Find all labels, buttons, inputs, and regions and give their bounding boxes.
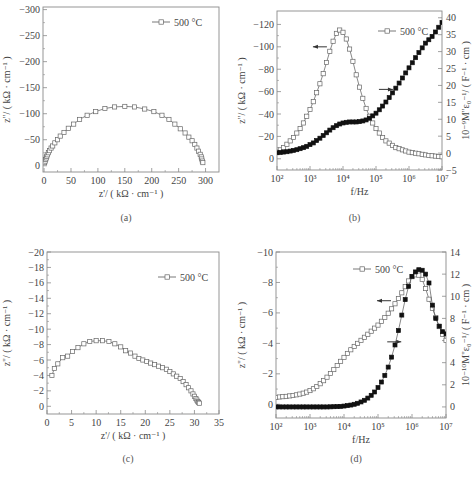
x-tick-label: 200	[144, 175, 159, 186]
marker-open-square	[386, 311, 390, 315]
y-right-tick-label: 8	[450, 313, 455, 324]
x-axis-label: f/Hz	[352, 434, 370, 445]
marker-open-square	[66, 126, 70, 130]
y-right-tick-label: 0	[446, 148, 451, 159]
legend-marker-icon	[385, 29, 389, 33]
marker-filled-square	[430, 34, 434, 38]
marker-open-square	[62, 130, 66, 134]
x-tick-label: 10⁴	[337, 421, 351, 432]
y-tick-label: −50	[24, 134, 40, 145]
y-tick-label: 0	[268, 399, 273, 410]
y-tick-label: 0	[269, 153, 274, 164]
x-tick-label: 150	[117, 175, 132, 186]
plot-area	[274, 268, 448, 409]
marker-filled-square	[414, 56, 418, 60]
marker-open-square	[137, 356, 141, 360]
marker-filled-square	[386, 365, 390, 369]
marker-open-square	[291, 135, 295, 139]
y-right-tick-label: 0	[450, 401, 455, 412]
y-tick-label: −10	[28, 324, 44, 335]
y-right-tick-label: 25	[446, 63, 456, 74]
x-tick-label: 10⁶	[405, 421, 419, 432]
marker-open-square	[124, 349, 128, 353]
y-right-tick-label: 14	[450, 247, 460, 258]
y-tick-label: −2	[262, 368, 273, 379]
marker-open-square	[128, 351, 132, 355]
marker-filled-square	[407, 66, 411, 70]
x-axis-label: z'/ ( kΩ · cm⁻¹ )	[101, 430, 165, 442]
marker-filled-square	[384, 100, 388, 104]
marker-open-square	[70, 349, 74, 353]
x-tick-label: 15	[116, 417, 126, 428]
marker-filled-square	[400, 76, 404, 80]
y-tick-label: −6	[33, 355, 44, 366]
y-right-tick-label: 30	[446, 46, 456, 57]
marker-open-square	[383, 315, 387, 319]
y-tick-label: −14	[28, 293, 44, 304]
marker-filled-square	[390, 355, 394, 359]
marker-open-square	[160, 366, 164, 370]
y-axis-right: −50510152025303540	[438, 12, 457, 175]
marker-open-square	[173, 122, 177, 126]
marker-open-square	[440, 155, 444, 159]
y-axis-left: 0−2−4−6−8−10	[257, 247, 280, 410]
x-tick-label: 20	[140, 417, 150, 428]
panel-c: 05101520253035z'/ ( kΩ · cm⁻¹ )0−2−4−6−8…	[1, 247, 224, 466]
legend: 500 °C	[152, 17, 202, 28]
marker-open-square	[156, 364, 160, 368]
x-axis-label: f/Hz	[351, 186, 369, 197]
x-axis: 05101520253035	[45, 410, 225, 428]
marker-open-square	[348, 47, 352, 51]
y-tick-label: −2	[33, 385, 44, 396]
marker-open-square	[311, 100, 315, 104]
plot-frame	[43, 7, 219, 172]
marker-open-square	[94, 339, 98, 343]
y-tick-label: −6	[262, 307, 273, 318]
y-right-tick-label: 10	[446, 114, 456, 125]
panel-caption: (d)	[350, 453, 362, 465]
marker-open-square	[328, 49, 332, 53]
series-line	[277, 30, 442, 157]
marker-open-square	[123, 104, 127, 108]
marker-filled-square	[376, 386, 380, 390]
marker-open-square	[332, 367, 336, 371]
legend-label: 500 °C	[180, 272, 208, 283]
marker-filled-square	[397, 81, 401, 85]
marker-open-square	[335, 363, 339, 367]
y-tick-label: −100	[19, 108, 40, 119]
marker-open-square	[318, 82, 322, 86]
marker-open-square	[393, 302, 397, 306]
series-line	[276, 275, 446, 398]
marker-open-square	[103, 106, 107, 110]
plot-area	[275, 21, 444, 159]
legend-marker-icon	[360, 267, 364, 271]
legend: 500 °C	[353, 264, 403, 275]
y-tick-label: −10	[257, 247, 273, 258]
marker-open-square	[82, 342, 86, 346]
marker-filled-square	[394, 86, 398, 90]
marker-open-square	[107, 339, 111, 343]
marker-filled-square	[434, 316, 438, 320]
marker-open-square	[342, 355, 346, 359]
marker-open-square	[85, 113, 89, 117]
marker-filled-square	[410, 274, 414, 278]
marker-open-square	[315, 91, 319, 95]
marker-filled-square	[430, 303, 434, 307]
marker-filled-square	[427, 281, 431, 285]
legend-marker-icon	[165, 275, 169, 279]
marker-filled-square	[379, 380, 383, 384]
marker-open-square	[324, 60, 328, 64]
marker-open-square	[354, 73, 358, 77]
x-axis: 10²10³10⁴10⁵10⁶10⁷	[271, 166, 450, 184]
y-tick-label: −60	[258, 86, 274, 97]
plot-area	[50, 339, 202, 406]
marker-open-square	[295, 131, 299, 135]
marker-open-square	[305, 114, 309, 118]
x-axis: 10²10³10⁴10⁵10⁶10⁷	[270, 414, 454, 432]
x-tick-label: 30	[189, 417, 199, 428]
legend-label: 500 °C	[375, 264, 403, 275]
marker-filled-square	[381, 104, 385, 108]
marker-open-square	[178, 127, 182, 131]
marker-open-square	[76, 346, 80, 350]
y-axis-label: z''/ ( kΩ · cm⁻¹ )	[236, 302, 248, 368]
